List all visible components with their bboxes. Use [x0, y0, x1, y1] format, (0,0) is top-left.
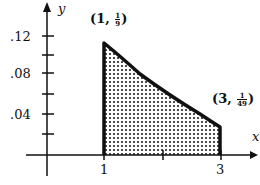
- point-annotation-right: (3, 149): [212, 92, 254, 107]
- x-axis-arrow-icon: [250, 151, 258, 159]
- y-axis-label: y: [58, 2, 65, 15]
- x-tick-label: 3: [216, 163, 224, 176]
- y-ticks: [42, 36, 54, 134]
- y-tick-label: .08: [10, 67, 31, 80]
- y-tick-label: .12: [10, 30, 31, 43]
- point-annotation-left: (1, 19): [90, 12, 127, 27]
- x-tick-label: 1: [100, 163, 108, 176]
- y-tick-label: .04: [10, 108, 31, 121]
- y-axis-arrow-icon: [43, 2, 51, 12]
- x-axis-label: x: [252, 130, 259, 143]
